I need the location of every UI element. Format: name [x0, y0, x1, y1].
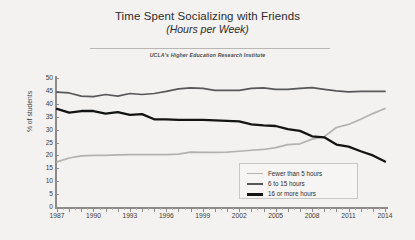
legend-item-label: Fewer than 5 hours [268, 169, 322, 178]
chart-page: Time Spent Socializing with Friends (Hou… [0, 0, 415, 240]
chart-legend: Fewer than 5 hours6 to 15 hours16 or mor… [239, 163, 358, 199]
series-line-6-to-15-hours [57, 88, 385, 97]
legend-item-label: 16 or more hours [268, 189, 316, 198]
chart-series-lines [0, 0, 415, 240]
legend-item-label: 6 to 15 hours [268, 179, 305, 188]
legend-color-swatch [247, 193, 263, 196]
legend-color-swatch [247, 183, 263, 185]
series-line-fewer-than-5-hours [57, 108, 385, 161]
legend-color-swatch [247, 173, 263, 174]
series-line-16-or-more-hours [57, 109, 385, 162]
